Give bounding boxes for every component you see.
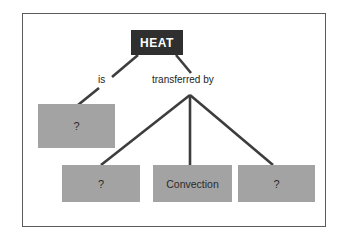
node-convection[interactable]: Convection [153, 165, 232, 202]
node-transfer-blank-1-label: ? [98, 178, 104, 190]
edge-label-is: is [98, 74, 105, 85]
node-transfer-blank-2-label: ? [273, 178, 279, 190]
node-property-blank[interactable]: ? [38, 104, 115, 148]
edge-label-transferred-by: transferred by [152, 74, 214, 85]
node-heat-label: HEAT [140, 36, 174, 50]
node-property-blank-label: ? [73, 120, 79, 132]
node-convection-label: Convection [166, 178, 219, 190]
node-heat[interactable]: HEAT [131, 30, 183, 55]
concept-map-diagram: HEAT is transferred by ? ? Convection ? [0, 0, 347, 244]
node-transfer-blank-2[interactable]: ? [238, 165, 315, 202]
node-transfer-blank-1[interactable]: ? [62, 165, 140, 202]
